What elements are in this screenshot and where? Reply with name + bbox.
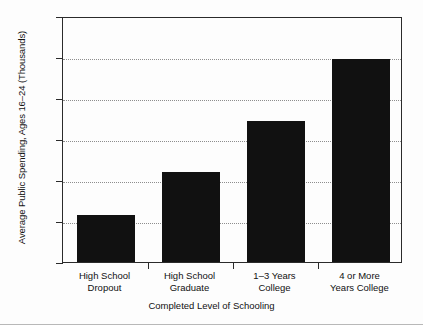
x-axis-category-label: High SchoolDropout — [62, 270, 147, 293]
x-axis-category-line: High School — [62, 270, 147, 282]
bar-series — [63, 18, 401, 262]
x-axis-tick — [318, 262, 319, 269]
x-axis-category-line: Graduate — [147, 282, 232, 294]
y-axis-tick — [56, 99, 63, 100]
y-axis-tick — [56, 140, 63, 141]
x-axis-category-line: 4 or More — [317, 270, 402, 282]
bar — [247, 121, 305, 262]
y-axis-tick — [56, 58, 63, 59]
x-axis-tick — [148, 262, 149, 269]
x-axis-category-label: High SchoolGraduate — [147, 270, 232, 293]
x-axis-category-line: High School — [147, 270, 232, 282]
y-axis-tick — [56, 181, 63, 182]
y-axis-tick — [56, 17, 63, 18]
x-axis-category-label: 4 or MoreYears College — [317, 270, 402, 293]
x-axis-category-line: Years College — [317, 282, 402, 294]
x-axis-category-line: College — [232, 282, 317, 294]
y-axis-tick — [56, 263, 63, 264]
x-axis-title: Completed Level of Schooling — [0, 300, 423, 311]
bar — [332, 59, 390, 262]
x-axis-category-label: 1–3 YearsCollege — [232, 270, 317, 293]
y-axis-tick — [56, 222, 63, 223]
x-axis-tick — [233, 262, 234, 269]
y-axis-title: Average Public Spending, Ages 16–24 (Tho… — [16, 13, 27, 263]
chart-figure: Average Public Spending, Ages 16–24 (Tho… — [0, 0, 423, 325]
x-axis-category-line: 1–3 Years — [232, 270, 317, 282]
bar — [162, 172, 220, 262]
x-axis-category-line: Dropout — [62, 282, 147, 294]
plot-area: $0$5$10$15$20$25$30 — [62, 17, 402, 263]
bar — [77, 215, 135, 262]
